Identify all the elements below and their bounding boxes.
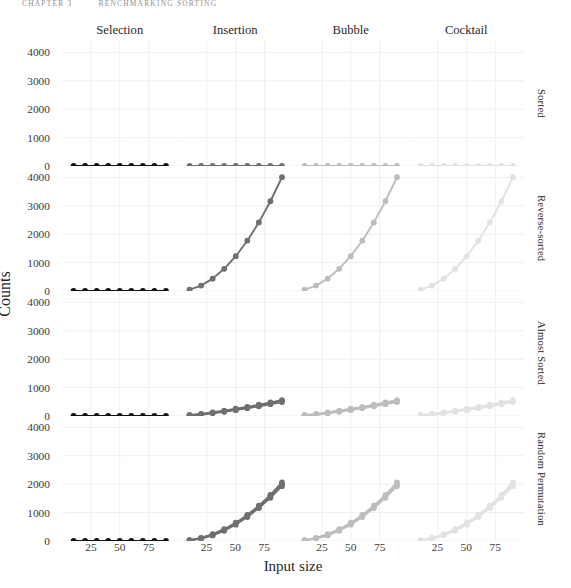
panel-insertion-random-permutation — [178, 416, 294, 541]
row-title-sorted-label: Sorted — [536, 89, 547, 118]
y-tick-label: 2000 — [27, 478, 50, 490]
row-title-random-permutation-label: Random Permutation — [536, 432, 547, 526]
panel-insertion-almost-sorted — [178, 291, 294, 416]
y-tick-group-reverse-sorted: 01000200030004000 — [0, 166, 58, 291]
row-title-reverse-sorted: Reverse-sorted — [528, 166, 554, 291]
y-tick-label: 2000 — [27, 228, 50, 240]
panel-cocktail-reverse-sorted — [409, 166, 525, 291]
x-tick-label: 75 — [258, 541, 269, 553]
y-tick-label: 2000 — [27, 353, 50, 365]
row-title-almost-sorted: Almost Sorted — [528, 291, 554, 416]
panel-cocktail-random-permutation — [409, 416, 525, 541]
panel-bubble-random-permutation — [293, 416, 409, 541]
y-tick-group-random-permutation: 01000200030004000 — [0, 416, 58, 541]
x-tick-group-selection: 255075 — [62, 541, 178, 557]
x-tick-label: 25 — [316, 541, 327, 553]
row-strip-titles: Sorted Reverse-sorted Almost Sorted Rand… — [528, 41, 554, 541]
y-tick-label: 1000 — [27, 132, 50, 144]
facet-grid — [62, 41, 524, 541]
x-tick-label: 25 — [85, 541, 96, 553]
panel-bubble-almost-sorted — [293, 291, 409, 416]
x-tick-label: 75 — [374, 541, 385, 553]
y-tick-label: 4000 — [27, 171, 50, 183]
panel-selection-reverse-sorted — [62, 166, 178, 291]
row-title-sorted: Sorted — [528, 41, 554, 166]
panel-selection-random-permutation — [62, 416, 178, 541]
y-tick-label: 4000 — [27, 46, 50, 58]
chart-page: Chapter 3Benchmarking sorting Selection … — [0, 0, 571, 588]
y-tick-label: 1000 — [27, 382, 50, 394]
x-tick-label: 75 — [489, 541, 500, 553]
x-axis-tick-labels: 255075255075255075255075 — [62, 541, 524, 557]
y-axis-tick-labels: 0100020003000400001000200030004000010002… — [0, 41, 58, 541]
y-tick-label: 3000 — [27, 200, 50, 212]
y-tick-label: 0 — [44, 535, 50, 547]
y-tick-label: 3000 — [27, 325, 50, 337]
x-tick-label: 25 — [201, 541, 212, 553]
running-head-left: Chapter 3 — [22, 0, 72, 8]
panel-insertion-sorted — [178, 41, 294, 166]
y-tick-label: 3000 — [27, 75, 50, 87]
column-title-selection: Selection — [62, 20, 178, 40]
y-tick-label: 4000 — [27, 421, 50, 433]
x-tick-label: 75 — [143, 541, 154, 553]
running-head-right: Benchmarking sorting — [98, 0, 217, 8]
row-title-almost-sorted-label: Almost Sorted — [536, 321, 547, 385]
panel-cocktail-almost-sorted — [409, 291, 525, 416]
x-tick-label: 25 — [432, 541, 443, 553]
column-title-bubble: Bubble — [293, 20, 409, 40]
x-tick-label: 50 — [461, 541, 472, 553]
running-head: Chapter 3Benchmarking sorting — [22, 0, 217, 8]
panel-bubble-reverse-sorted — [293, 166, 409, 291]
y-tick-label: 1000 — [27, 507, 50, 519]
y-tick-label: 3000 — [27, 450, 50, 462]
panel-selection-sorted — [62, 41, 178, 166]
column-title-insertion: Insertion — [178, 20, 294, 40]
y-tick-label: 4000 — [27, 296, 50, 308]
panel-insertion-reverse-sorted — [178, 166, 294, 291]
y-tick-label: 1000 — [27, 257, 50, 269]
row-title-random-permutation: Random Permutation — [528, 416, 554, 541]
row-title-reverse-sorted-label: Reverse-sorted — [536, 195, 547, 261]
x-tick-label: 50 — [114, 541, 125, 553]
column-title-cocktail: Cocktail — [409, 20, 525, 40]
x-tick-label: 50 — [345, 541, 356, 553]
x-tick-group-cocktail: 255075 — [409, 541, 525, 557]
column-strip-titles: Selection Insertion Bubble Cocktail — [62, 20, 524, 40]
panel-selection-almost-sorted — [62, 291, 178, 416]
y-tick-group-sorted: 01000200030004000 — [0, 41, 58, 166]
y-tick-group-almost-sorted: 01000200030004000 — [0, 291, 58, 416]
panel-bubble-sorted — [293, 41, 409, 166]
x-tick-group-insertion: 255075 — [178, 541, 294, 557]
y-tick-label: 2000 — [27, 103, 50, 115]
x-tick-group-bubble: 255075 — [293, 541, 409, 557]
x-tick-label: 50 — [230, 541, 241, 553]
x-axis-label: Input size — [62, 558, 524, 575]
panel-cocktail-sorted — [409, 41, 525, 166]
